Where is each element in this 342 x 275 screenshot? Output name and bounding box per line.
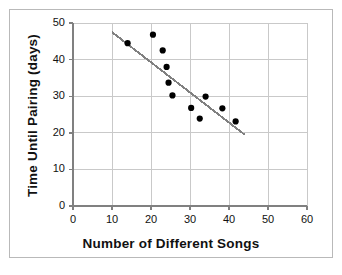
x-tick-label: 60: [292, 213, 322, 225]
x-tick-label: 20: [136, 213, 166, 225]
x-tick-label: 50: [253, 213, 283, 225]
gridlines-group: [73, 23, 307, 206]
y-tick-label: 10: [35, 162, 65, 174]
data-point: [203, 93, 209, 99]
data-point: [188, 105, 194, 111]
y-tick-label: 40: [35, 53, 65, 65]
data-point: [169, 92, 175, 98]
x-tick-label: 0: [58, 213, 88, 225]
y-tick-label: 50: [35, 16, 65, 28]
data-point: [197, 115, 203, 121]
data-point: [219, 105, 225, 111]
scatter-plot-figure: 010203040500102030405060 Time Until Pair…: [0, 0, 342, 275]
data-point: [160, 47, 166, 53]
data-points-group: [125, 32, 239, 125]
data-point: [233, 118, 239, 124]
trend-line-group: [112, 32, 245, 134]
data-point: [150, 32, 156, 38]
data-point: [165, 80, 171, 86]
y-tick-label: 20: [35, 126, 65, 138]
x-tick-label: 30: [175, 213, 205, 225]
x-tick-label: 10: [97, 213, 127, 225]
y-tick-label: 0: [35, 199, 65, 211]
x-axis-title: Number of Different Songs: [0, 236, 342, 251]
data-point: [164, 64, 170, 70]
y-axis-title: Time Until Pairing (days): [25, 16, 40, 216]
data-point: [125, 40, 131, 46]
trend-line: [112, 32, 245, 134]
x-tick-label: 40: [214, 213, 244, 225]
y-tick-label: 30: [35, 89, 65, 101]
tick-marks-group: [69, 23, 307, 210]
